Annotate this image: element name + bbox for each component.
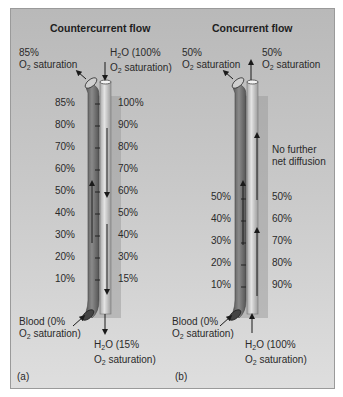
label-line: Blood (0% [172, 316, 234, 328]
label-line: O2 saturation) [94, 354, 156, 369]
blood-value: 20% [211, 257, 231, 268]
blood-value: 30% [211, 235, 231, 246]
water-channel [100, 82, 111, 314]
blood-value: 50% [211, 191, 231, 202]
water-channel [247, 82, 258, 314]
label-line: Blood (0% [19, 316, 81, 328]
blood-value: 70% [55, 141, 75, 152]
water-value: 70% [118, 163, 138, 174]
blood-value: 30% [55, 229, 75, 240]
panel-a-water-outflow-label: H2O (15% O2 saturation) [94, 339, 156, 369]
label-line: O2 saturation) [245, 354, 307, 369]
blood-value: 85% [55, 97, 75, 108]
label-line: O2 saturation [19, 59, 77, 74]
panel-b-water-inflow-label: H2O (100% O2 saturation) [245, 339, 307, 369]
water-value: 80% [272, 257, 292, 268]
water-value: 60% [272, 213, 292, 224]
water-value: 70% [272, 235, 292, 246]
blood-value: 80% [55, 119, 75, 130]
label-line: O2 saturation [182, 59, 240, 74]
panel-b-tag: (b) [175, 371, 187, 382]
label-line: 50% [182, 47, 240, 59]
water-value: 100% [118, 97, 144, 108]
label-line: 85% [19, 47, 77, 59]
panel-a-tag: (a) [17, 371, 29, 382]
blood-value: 40% [55, 207, 75, 218]
countercurrent-vessels [73, 62, 121, 332]
label-line: No further [272, 144, 326, 156]
water-value: 50% [118, 207, 138, 218]
panel-a-blood-inflow-label: Blood (0% O2 saturation) [19, 316, 81, 343]
panel-b-blood-inflow-label: Blood (0% O2 saturation) [172, 316, 234, 343]
label-line: net diffusion [272, 156, 326, 168]
water-value: 90% [272, 279, 292, 290]
water-value: 40% [118, 229, 138, 240]
blood-value: 10% [55, 273, 75, 284]
panel-b-water-outflow-label: 50% O2 saturation [262, 47, 320, 74]
blood-value: 40% [211, 213, 231, 224]
water-value: 90% [118, 119, 138, 130]
blood-value: 60% [55, 163, 75, 174]
panel-a-blood-outflow-label: 85% O2 saturation [19, 47, 77, 74]
label-line: H2O (100% [245, 339, 307, 354]
label-line: O2 saturation) [19, 328, 81, 343]
water-value: 50% [272, 191, 292, 202]
panel-a-water-inflow-label: H2O (100% O2 saturation) [110, 47, 172, 77]
no-net-diffusion-annotation: No further net diffusion [272, 144, 326, 168]
water-value: 15% [118, 273, 138, 284]
panel-b-blood-outflow-label: 50% O2 saturation [182, 47, 240, 74]
panel-b-title: Concurrent flow [212, 22, 293, 34]
label-line: H2O (15% [94, 339, 156, 354]
label-line: O2 saturation [262, 59, 320, 74]
label-line: H2O (100% [110, 47, 172, 62]
water-value: 80% [118, 141, 138, 152]
label-line: 50% [262, 47, 320, 59]
blood-value: 10% [211, 279, 231, 290]
label-line: O2 saturation) [172, 328, 234, 343]
blood-value: 50% [55, 185, 75, 196]
panel-a-title: Countercurrent flow [50, 22, 150, 34]
water-value: 30% [118, 251, 138, 262]
blood-value: 20% [55, 251, 75, 262]
label-line: O2 saturation) [110, 62, 172, 77]
water-value: 60% [118, 185, 138, 196]
blood-outflow-arrow [78, 72, 86, 79]
